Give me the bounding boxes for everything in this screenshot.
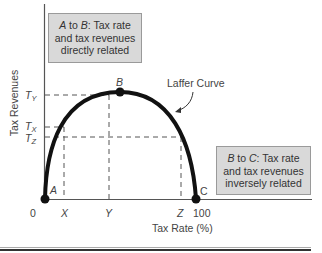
laffer-curve bbox=[45, 92, 196, 199]
point-a bbox=[41, 195, 50, 204]
y-tick-ty: TY bbox=[25, 89, 36, 105]
note-bc-line2: and tax revenues bbox=[217, 165, 310, 178]
note-b-to-c: B to C: Tax rate and tax revenues invers… bbox=[216, 146, 311, 195]
x-tick-y: Y bbox=[105, 207, 112, 219]
point-b bbox=[116, 88, 125, 97]
y-axis-label: Tax Revenues bbox=[8, 70, 20, 137]
curve-label-arrow bbox=[177, 92, 193, 111]
note-bc-line1: : Tax rate bbox=[257, 152, 300, 164]
note-bc-to: C bbox=[249, 152, 257, 164]
x-tick-100: 100 bbox=[193, 207, 211, 219]
x-tick-0: 0 bbox=[30, 207, 36, 219]
laffer-curve-figure: A to B: Tax rate and tax revenues direct… bbox=[0, 0, 322, 253]
x-tick-x: X bbox=[61, 207, 68, 219]
x-tick-z: Z bbox=[177, 207, 183, 219]
note-bc-mid: to bbox=[234, 152, 249, 164]
note-ab-mid: to bbox=[66, 19, 81, 31]
note-a-to-b: A to B: Tax rate and tax revenues direct… bbox=[48, 13, 142, 63]
note-ab-to: B bbox=[81, 19, 88, 31]
x-axis-label: Tax Rate (%) bbox=[152, 222, 213, 234]
arrow-head-icon bbox=[175, 107, 181, 113]
y-tick-tz: TZ bbox=[25, 132, 36, 148]
curve-label: Laffer Curve bbox=[167, 77, 225, 89]
note-ab-line2: and tax revenues bbox=[49, 32, 141, 45]
note-bc-line3: inversely related bbox=[217, 177, 310, 190]
note-ab-line3: directly related bbox=[49, 44, 141, 57]
point-c-label: C bbox=[200, 185, 208, 197]
point-b-label: B bbox=[116, 76, 123, 88]
guide-lines bbox=[45, 95, 181, 199]
point-a-label: A bbox=[50, 184, 57, 196]
note-ab-line1: : Tax rate bbox=[88, 19, 131, 31]
